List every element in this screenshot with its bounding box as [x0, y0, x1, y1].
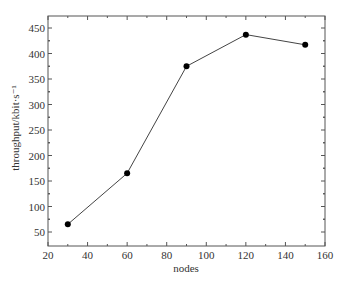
- y-tick-label: 450: [29, 22, 46, 34]
- data-point-marker: [243, 32, 249, 38]
- data-series: [65, 32, 308, 228]
- line-chart: 20406080100120140160 5010015020025030035…: [0, 0, 344, 289]
- data-point-marker: [302, 42, 308, 48]
- x-tick-label: 140: [277, 249, 294, 261]
- y-tick-label: 400: [29, 48, 46, 60]
- y-tick-label: 50: [34, 226, 46, 238]
- x-tick-label: 160: [317, 249, 334, 261]
- y-tick-label: 350: [29, 73, 46, 85]
- y-tick-label: 200: [29, 150, 46, 162]
- y-tick-label: 300: [29, 99, 46, 111]
- x-tick-label: 40: [82, 249, 94, 261]
- y-tick-label: 150: [29, 175, 46, 187]
- y-tick-label: 250: [29, 124, 46, 136]
- x-tick-label: 60: [122, 249, 134, 261]
- x-tick-label: 100: [198, 249, 215, 261]
- y-axis-title: throughput/kbit·s⁻¹: [9, 85, 21, 171]
- plot-border: [48, 16, 325, 246]
- x-axis-ticks: 20406080100120140160: [43, 16, 334, 261]
- y-tick-label: 100: [29, 201, 46, 213]
- y-axis-ticks: 50100150200250300350400450: [29, 22, 326, 238]
- x-axis-title: nodes: [173, 262, 199, 274]
- data-point-marker: [124, 170, 130, 176]
- plot-frame: [48, 16, 325, 246]
- x-tick-label: 20: [43, 249, 55, 261]
- series-line: [68, 35, 305, 225]
- data-point-marker: [65, 221, 71, 227]
- x-tick-label: 80: [161, 249, 173, 261]
- x-tick-label: 120: [238, 249, 255, 261]
- data-point-marker: [184, 63, 190, 69]
